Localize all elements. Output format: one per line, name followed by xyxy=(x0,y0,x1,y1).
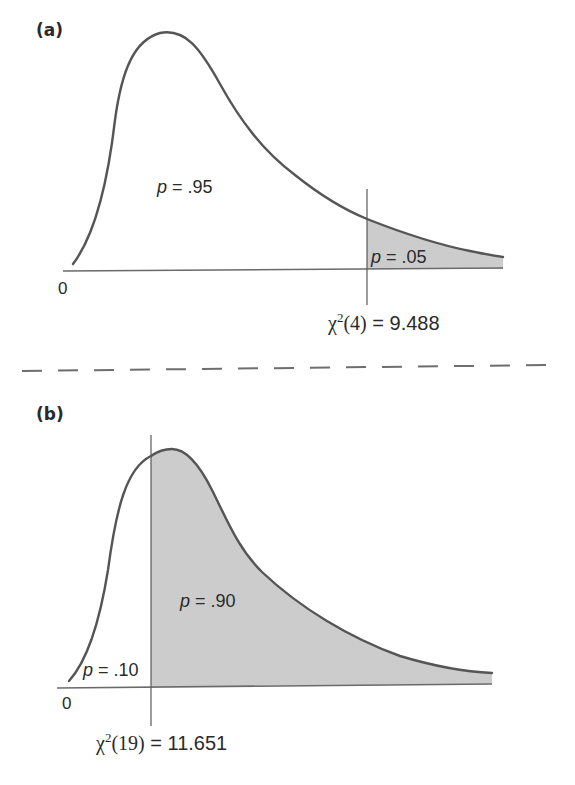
panel-b-left-probability: p = .10 xyxy=(82,660,139,680)
panel-a-origin-label: 0 xyxy=(58,279,67,298)
panel-a-critical-value: χ2(4) = 9.488 xyxy=(327,310,440,335)
panel-a-label: (a) xyxy=(36,20,63,40)
panel-b: (b) 0 p = .90 p = .10 χ2(19) = 11.651 xyxy=(36,404,492,755)
panel-b-shaded-region xyxy=(151,449,492,687)
panel-b-critical-value: χ2(19) = 11.651 xyxy=(95,730,227,755)
panel-b-label: (b) xyxy=(36,404,64,424)
panel-a-density-curve xyxy=(73,32,503,264)
panel-a-right-probability: p = .05 xyxy=(370,247,427,267)
panel-b-right-probability: p = .90 xyxy=(179,591,236,611)
panel-a: (a) 0 p = .95 p = .05 χ2(4) = 9.488 xyxy=(36,20,503,335)
panel-a-left-probability: p = .95 xyxy=(156,177,213,197)
chi-square-figure: (a) 0 p = .95 p = .05 χ2(4) = 9.488 (b) … xyxy=(0,0,575,785)
panel-b-origin-label: 0 xyxy=(62,694,71,713)
panel-divider xyxy=(22,365,552,371)
panel-a-x-axis xyxy=(63,268,503,271)
